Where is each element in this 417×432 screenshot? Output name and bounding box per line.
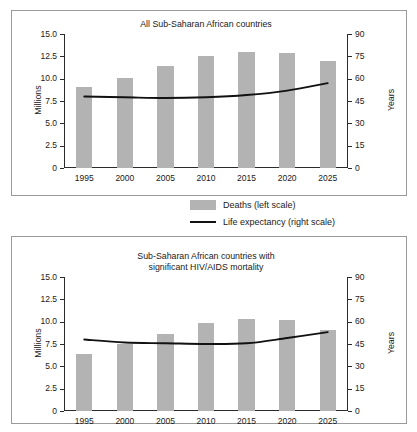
left-axis-title: Millions <box>33 323 43 363</box>
right-axis-tick <box>348 56 352 57</box>
plot-area: 02.55.07.510.012.515.0015304560759019952… <box>64 34 348 168</box>
right-axis-tick-label: 15 <box>355 384 364 393</box>
right-axis-tick <box>348 123 352 124</box>
x-axis-tick-label: 1995 <box>75 417 94 426</box>
legend-label-deaths: Deaths (left scale) <box>223 200 296 210</box>
figure-root: All Sub-Saharan African countries Millio… <box>0 0 417 432</box>
right-axis-tick <box>348 322 352 323</box>
left-axis-tick-label: 5.0 <box>45 119 57 128</box>
life-expectancy-line <box>64 277 348 411</box>
legend: Deaths (left scale) Life expectancy (rig… <box>11 196 405 234</box>
left-axis-title: Millions <box>33 80 43 120</box>
chart-title: All Sub-Saharan African countries <box>64 19 348 30</box>
right-axis-tick-label: 90 <box>355 30 364 39</box>
right-axis-tick <box>348 34 352 35</box>
x-axis-tick-label: 2025 <box>318 417 337 426</box>
right-axis-tick-label: 45 <box>355 97 364 106</box>
chart-hiv-aids-countries: Sub-Saharan African countries with signi… <box>12 237 406 423</box>
life-expectancy-line <box>64 34 348 168</box>
x-axis-tick-label: 2010 <box>197 417 216 426</box>
left-axis-tick-label: 15.0 <box>40 30 57 39</box>
left-axis-tick-label: 12.5 <box>40 52 57 61</box>
right-axis-tick <box>348 277 352 278</box>
right-axis-tick <box>348 101 352 102</box>
x-axis-tick-label: 2015 <box>237 174 256 183</box>
left-axis-tick-label: 10.0 <box>40 74 57 83</box>
right-axis-tick-label: 0 <box>355 407 360 416</box>
left-axis-tick-label: 0 <box>52 407 57 416</box>
legend-label-life-expectancy: Life expectancy (right scale) <box>223 217 335 227</box>
right-axis-tick-label: 75 <box>355 52 364 61</box>
left-axis-tick-label: 7.5 <box>45 97 57 106</box>
right-axis-tick-label: 15 <box>355 141 364 150</box>
x-axis-tick-label: 2005 <box>156 417 175 426</box>
right-axis-title: Years <box>386 326 396 360</box>
left-axis-tick-label: 0 <box>52 164 57 173</box>
x-axis-tick-label: 2020 <box>278 174 297 183</box>
right-axis-tick <box>348 389 352 390</box>
chart-panel-all-countries: All Sub-Saharan African countries Millio… <box>11 10 407 196</box>
left-axis-tick-label: 2.5 <box>45 384 57 393</box>
x-axis-tick-label: 2005 <box>156 174 175 183</box>
plot-area: 02.55.07.510.012.515.0015304560759019952… <box>64 277 348 411</box>
x-axis-tick-label: 1995 <box>75 174 94 183</box>
bar-swatch-icon <box>190 200 216 210</box>
x-axis-tick-label: 2020 <box>278 417 297 426</box>
line-swatch-icon <box>190 221 216 223</box>
right-axis-tick <box>348 411 352 412</box>
right-axis-tick-label: 30 <box>355 119 364 128</box>
right-axis-tick <box>348 366 352 367</box>
left-axis-tick <box>60 168 64 169</box>
right-axis-tick-label: 30 <box>355 362 364 371</box>
left-axis-tick-label: 10.0 <box>40 317 57 326</box>
left-axis-tick-label: 12.5 <box>40 295 57 304</box>
chart-panel-hiv-aids-countries: Sub-Saharan African countries with signi… <box>11 236 407 424</box>
left-axis-tick-label: 5.0 <box>45 362 57 371</box>
x-axis-tick-label: 2015 <box>237 417 256 426</box>
right-axis-tick-label: 90 <box>355 273 364 282</box>
right-axis-title: Years <box>386 83 396 117</box>
right-axis-tick-label: 75 <box>355 295 364 304</box>
left-axis-tick-label: 15.0 <box>40 273 57 282</box>
legend-item-life-expectancy: Life expectancy (right scale) <box>190 217 335 227</box>
x-axis-tick-label: 2025 <box>318 174 337 183</box>
legend-item-deaths: Deaths (left scale) <box>190 200 296 210</box>
right-axis-tick-label: 60 <box>355 74 364 83</box>
x-axis-tick-label: 2000 <box>115 174 134 183</box>
right-axis-tick-label: 60 <box>355 317 364 326</box>
left-axis-tick-label: 7.5 <box>45 340 57 349</box>
right-axis-tick-label: 0 <box>355 164 360 173</box>
right-axis-tick-label: 45 <box>355 340 364 349</box>
left-axis-tick <box>60 411 64 412</box>
chart-title: Sub-Saharan African countries with signi… <box>64 251 348 273</box>
right-axis-tick <box>348 146 352 147</box>
right-axis-tick <box>348 299 352 300</box>
right-axis-tick <box>348 344 352 345</box>
x-axis-tick-label: 2000 <box>115 417 134 426</box>
chart-all-countries: All Sub-Saharan African countries Millio… <box>12 11 406 195</box>
x-axis-tick-label: 2010 <box>197 174 216 183</box>
right-axis-tick <box>348 168 352 169</box>
left-axis-tick-label: 2.5 <box>45 141 57 150</box>
right-axis-tick <box>348 79 352 80</box>
